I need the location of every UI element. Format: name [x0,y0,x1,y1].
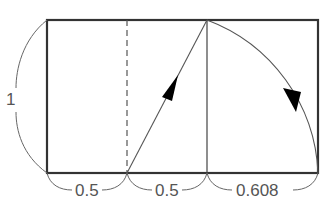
diagonal-arrow-icon [162,75,178,101]
outer-rectangle [47,20,318,173]
arc-arrow-icon [283,88,301,112]
height-label: 1 [6,90,15,109]
golden-rectangle-diagram: 1 0.5 0.5 0.608 [0,0,331,207]
swing-arc [207,20,318,173]
segment-3-label: 0.608 [236,181,279,200]
segment-1-label: 0.5 [75,181,99,200]
segment-2-label: 0.5 [155,181,179,200]
height-brace [16,20,47,173]
